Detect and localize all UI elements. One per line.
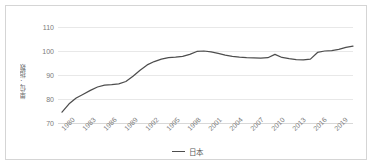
legend-label-japan: 日本 (189, 146, 203, 157)
chart-legend: 日本 (6, 146, 368, 157)
chart-frame: 単位：指数 110 100 90 80 70 1980 1983 1986 19… (5, 5, 367, 160)
chart-plot-area: 単位：指数 110 100 90 80 70 1980 1983 1986 19… (6, 6, 368, 161)
legend-line-marker (172, 151, 185, 152)
line-series-japan (6, 6, 368, 161)
